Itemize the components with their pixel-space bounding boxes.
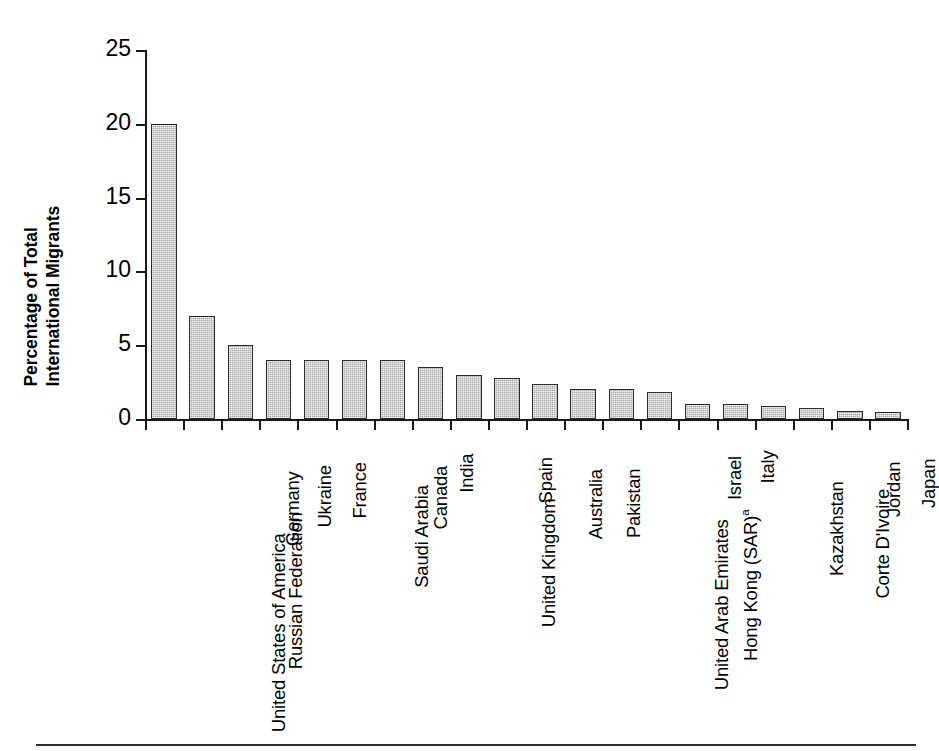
x-tick-label: Pakistan xyxy=(625,469,644,538)
x-tick-mark xyxy=(259,419,261,430)
bar xyxy=(609,389,634,419)
y-axis-title: Percentage of Total International Migran… xyxy=(22,96,80,386)
x-tick-mark xyxy=(412,419,414,430)
x-tick-mark xyxy=(907,419,909,430)
x-tick-label: Australia xyxy=(587,469,606,539)
x-tick-mark xyxy=(678,419,680,430)
y-tick-mark xyxy=(136,198,145,200)
x-tick-label: Hong Kong (SAR)a xyxy=(742,510,761,661)
y-tick-label: 0 xyxy=(118,406,131,429)
bar xyxy=(494,378,519,419)
x-tick-label: Germany xyxy=(285,471,304,546)
bar xyxy=(837,411,862,419)
x-tick-mark xyxy=(755,419,757,430)
x-tick-mark xyxy=(221,419,223,430)
x-tick-mark xyxy=(183,419,185,430)
x-tick-mark xyxy=(602,419,604,430)
y-tick-label: 10 xyxy=(105,258,131,281)
y-tick-label: 20 xyxy=(105,111,131,134)
bar xyxy=(723,404,748,419)
y-tick-label: 15 xyxy=(105,185,131,208)
x-tick-mark xyxy=(640,419,642,430)
x-tick-label: Saudi Arabia xyxy=(413,485,432,588)
x-tick-label: Spain xyxy=(537,457,556,503)
x-tick-label: Jordan xyxy=(885,462,904,517)
x-tick-mark xyxy=(717,419,719,430)
y-axis-title-line-1: Percentage of Total xyxy=(23,227,41,386)
x-tick-mark xyxy=(869,419,871,430)
x-tick-label: Italy xyxy=(759,450,778,483)
bar xyxy=(570,389,595,419)
x-tick-label: Kazakhstan xyxy=(828,481,847,576)
bar xyxy=(342,360,367,419)
x-tick-label: Israel xyxy=(726,456,745,500)
bar xyxy=(189,316,214,419)
bar xyxy=(151,124,176,419)
x-tick-mark xyxy=(450,419,452,430)
bar xyxy=(875,412,900,419)
footnote-marker: a xyxy=(740,510,752,516)
bar xyxy=(304,360,329,419)
bar xyxy=(266,360,291,419)
y-tick-mark xyxy=(136,271,145,273)
x-tick-mark xyxy=(831,419,833,430)
y-tick-mark xyxy=(136,419,145,421)
x-tick-mark xyxy=(793,419,795,430)
bar xyxy=(456,375,481,419)
y-tick-mark xyxy=(136,345,145,347)
bar xyxy=(228,345,253,419)
y-axis-title-line-2: International Migrants xyxy=(45,205,63,386)
bar xyxy=(761,406,786,419)
x-tick-label: Japan xyxy=(920,459,939,508)
y-tick-mark xyxy=(136,124,145,126)
bar xyxy=(532,384,557,419)
y-tick-label: 5 xyxy=(118,332,131,355)
x-tick-mark xyxy=(374,419,376,430)
x-tick-mark xyxy=(526,419,528,430)
x-tick-label: France xyxy=(352,462,371,518)
x-tick-mark xyxy=(564,419,566,430)
x-tick-mark xyxy=(145,419,147,430)
bar xyxy=(685,404,710,419)
y-axis-line xyxy=(145,50,147,419)
x-tick-label: United Kingdom xyxy=(540,498,559,627)
bar xyxy=(799,408,824,419)
bar xyxy=(380,360,405,419)
x-tick-label: Canada xyxy=(431,466,450,530)
x-tick-label: Ukraine xyxy=(317,465,336,527)
x-tick-mark xyxy=(297,419,299,430)
footer-divider xyxy=(36,744,916,746)
bar xyxy=(418,367,443,419)
y-tick-label: 25 xyxy=(105,37,131,60)
plot-area: 0510152025 xyxy=(145,50,907,419)
x-tick-mark xyxy=(488,419,490,430)
x-tick-mark xyxy=(336,419,338,430)
x-tick-label: India xyxy=(457,454,476,493)
x-tick-label: United Arab Emirates xyxy=(714,519,733,690)
y-tick-mark xyxy=(136,50,145,52)
bar xyxy=(647,392,672,419)
